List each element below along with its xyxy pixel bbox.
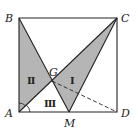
label-region-ii: Ⅱ bbox=[27, 75, 35, 86]
label-b: B bbox=[4, 12, 13, 25]
label-d: D bbox=[120, 107, 130, 120]
label-g: G bbox=[49, 66, 58, 79]
label-region-i: Ⅰ bbox=[70, 75, 75, 86]
label-c: C bbox=[121, 12, 130, 25]
geometry-diagram: B C A D M G Ⅰ Ⅱ Ⅲ bbox=[0, 0, 138, 132]
label-region-iii: Ⅲ bbox=[44, 98, 56, 109]
label-a: A bbox=[4, 107, 13, 120]
angle-mark-a-lower bbox=[26, 105, 30, 112]
label-m: M bbox=[63, 117, 76, 130]
